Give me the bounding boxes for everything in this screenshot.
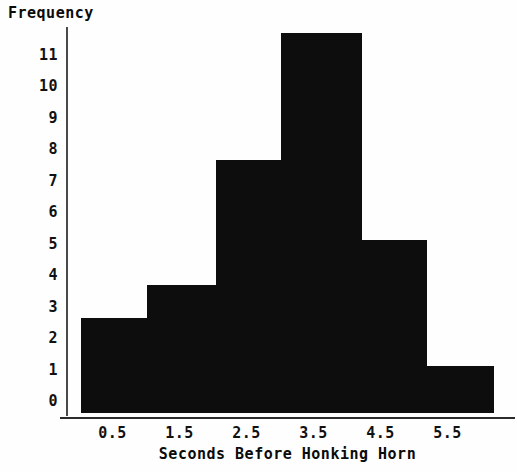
y-tick-label: 4 <box>2 266 58 284</box>
plot-area: 01234567891011 0.51.52.53.54.55.5 <box>0 0 517 472</box>
histogram-bar-5 <box>362 240 427 413</box>
x-tick-label: 2.5 <box>232 424 261 442</box>
histogram-bar-3 <box>216 160 281 413</box>
y-tick-label: 2 <box>2 329 58 347</box>
x-tick-label: 0.5 <box>98 424 127 442</box>
y-tick-label: 1 <box>2 361 58 379</box>
x-tick-label: 5.5 <box>433 424 462 442</box>
y-tick-label: 9 <box>2 109 58 127</box>
x-axis-line <box>60 417 515 419</box>
y-tick-label: 6 <box>2 203 58 221</box>
histogram-chart: 01234567891011 0.51.52.53.54.55.5 Freque… <box>0 0 517 472</box>
x-tick-label: 4.5 <box>366 424 395 442</box>
y-tick-label: 0 <box>2 392 58 410</box>
y-axis-title: Frequency <box>8 4 94 22</box>
y-tick-label: 7 <box>2 172 58 190</box>
y-axis-line <box>66 27 68 416</box>
x-tick-label: 3.5 <box>299 424 328 442</box>
y-tick-label: 8 <box>2 140 58 158</box>
y-tick-label: 11 <box>2 46 58 64</box>
y-tick-label: 10 <box>2 77 58 95</box>
x-tick-label: 1.5 <box>165 424 194 442</box>
histogram-bar-4 <box>281 33 362 413</box>
histogram-bar-6 <box>427 366 494 413</box>
x-axis-title: Seconds Before Honking Horn <box>0 445 517 463</box>
y-tick-label: 5 <box>2 235 58 253</box>
histogram-bar-1 <box>81 318 147 413</box>
y-tick-label: 3 <box>2 298 58 316</box>
histogram-bar-2 <box>147 285 216 413</box>
